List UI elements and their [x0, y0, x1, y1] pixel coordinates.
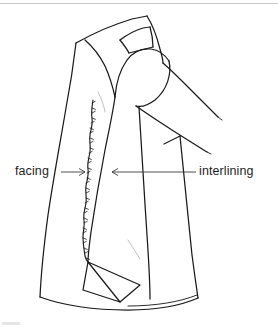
coat-sleeve-under-edge: [136, 106, 207, 152]
coat-back-outer-edge: [180, 136, 198, 298]
hem-corner-flap-upper: [88, 262, 140, 302]
coat-collar-top-edge: [76, 16, 147, 43]
coat-center-back-line: [139, 107, 150, 299]
faint-construction-mark-upper: [98, 92, 105, 112]
coat-collar-back-edge: [147, 16, 163, 63]
coat-shoulder-seam-left: [120, 40, 129, 53]
coat-sleeve-cap-curve: [136, 61, 170, 106]
coat-shoulder-top-seam: [120, 27, 150, 40]
coat-shoulder-seam-right: [150, 27, 153, 47]
coat-collar-roll: [85, 40, 115, 97]
facing-raw-edge-line: [83, 100, 93, 262]
scan-bottom-smudge: [2, 322, 20, 325]
coat-hem-allowance-line: [128, 295, 197, 306]
coat-back-shoulder-notch: [164, 136, 180, 144]
facing-label: facing: [15, 165, 49, 178]
coat-sleeve-cuff: [218, 117, 222, 120]
coat-sleeve-under-cuff: [207, 152, 211, 154]
coat-hem-curve: [40, 297, 198, 310]
facing-edge-ticks: [83, 101, 95, 259]
coat-armhole-curve: [115, 49, 169, 97]
interlining-label: interlining: [199, 165, 254, 178]
coat-sleeve-top-edge: [163, 63, 218, 117]
coat-diagram-figure: facing interlining: [0, 0, 278, 331]
faint-construction-mark-lower: [128, 240, 140, 259]
